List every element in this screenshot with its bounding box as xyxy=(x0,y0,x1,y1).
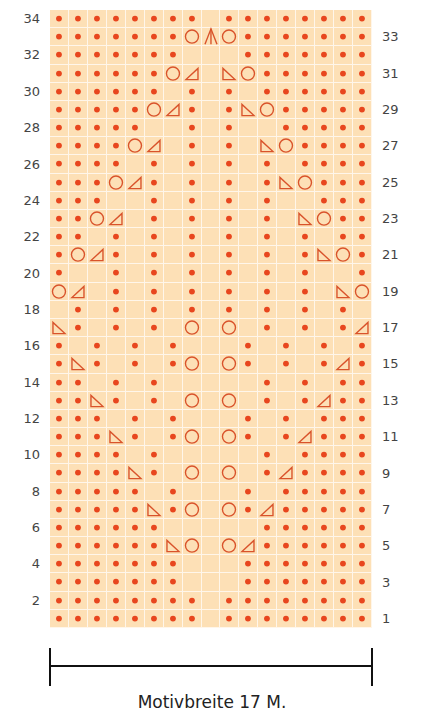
empty-cell xyxy=(220,446,239,464)
empty-cell xyxy=(126,264,145,282)
empty-cell xyxy=(258,410,277,428)
decrease-triangle-right-icon xyxy=(164,101,183,119)
decrease-triangle-left-icon xyxy=(334,283,353,301)
knit-dot-icon xyxy=(353,519,372,537)
knit-dot-icon xyxy=(50,228,69,246)
knit-dot-icon xyxy=(353,483,372,501)
empty-cell xyxy=(202,374,221,392)
knit-dot-icon xyxy=(50,573,69,591)
knit-dot-icon xyxy=(277,337,296,355)
row-label-right: 23 xyxy=(382,212,412,226)
knit-dot-icon xyxy=(315,83,334,101)
knit-dot-icon xyxy=(334,83,353,101)
knit-dot-icon xyxy=(69,301,88,319)
knit-dot-icon xyxy=(88,355,107,373)
empty-cell xyxy=(202,337,221,355)
decrease-triangle-left-icon xyxy=(220,65,239,83)
empty-cell xyxy=(277,374,296,392)
knit-dot-icon xyxy=(258,464,277,482)
empty-cell xyxy=(277,264,296,282)
empty-cell xyxy=(126,246,145,264)
knit-dot-icon xyxy=(277,28,296,46)
knit-dot-icon xyxy=(296,119,315,137)
knit-dot-icon xyxy=(334,446,353,464)
yarn-over-circle-icon xyxy=(183,428,202,446)
decrease-triangle-right-icon xyxy=(69,283,88,301)
empty-cell xyxy=(239,137,258,155)
knit-dot-icon xyxy=(183,301,202,319)
empty-cell xyxy=(126,301,145,319)
row-label-right: 25 xyxy=(382,176,412,190)
decrease-triangle-right-icon xyxy=(145,137,164,155)
knit-dot-icon xyxy=(69,519,88,537)
knit-dot-icon xyxy=(145,28,164,46)
yarn-over-circle-icon xyxy=(220,28,239,46)
knit-dot-icon xyxy=(334,464,353,482)
decrease-triangle-left-icon xyxy=(107,428,126,446)
knit-dot-icon xyxy=(69,28,88,46)
empty-cell xyxy=(315,283,334,301)
decrease-triangle-left-icon xyxy=(164,537,183,555)
knit-dot-icon xyxy=(258,301,277,319)
empty-cell xyxy=(277,446,296,464)
knit-dot-icon xyxy=(88,555,107,573)
empty-cell xyxy=(202,428,221,446)
yarn-over-circle-icon xyxy=(88,210,107,228)
knit-dot-icon xyxy=(107,228,126,246)
knit-dot-icon xyxy=(239,355,258,373)
knit-dot-icon xyxy=(296,374,315,392)
empty-cell xyxy=(277,283,296,301)
knit-dot-icon xyxy=(126,28,145,46)
empty-cell xyxy=(315,319,334,337)
knit-dot-icon xyxy=(88,46,107,64)
row-label-left: 20 xyxy=(0,267,40,281)
knit-dot-icon xyxy=(334,537,353,555)
empty-cell xyxy=(296,355,315,373)
yarn-over-circle-icon xyxy=(183,319,202,337)
knit-dot-icon xyxy=(353,337,372,355)
knit-dot-icon xyxy=(239,555,258,573)
yarn-over-circle-icon xyxy=(220,428,239,446)
knit-dot-icon xyxy=(239,501,258,519)
scale-line xyxy=(49,665,373,667)
empty-cell xyxy=(183,555,202,573)
yarn-over-circle-icon xyxy=(258,101,277,119)
knit-dot-icon xyxy=(296,28,315,46)
yarn-over-circle-icon xyxy=(107,174,126,192)
yarn-over-circle-icon xyxy=(220,537,239,555)
knit-dot-icon xyxy=(353,65,372,83)
empty-cell xyxy=(183,374,202,392)
yarn-over-circle-icon xyxy=(164,65,183,83)
knit-dot-icon xyxy=(296,555,315,573)
knit-dot-icon xyxy=(69,101,88,119)
empty-cell xyxy=(239,464,258,482)
knit-dot-icon xyxy=(296,519,315,537)
empty-cell xyxy=(126,155,145,173)
knit-dot-icon xyxy=(69,501,88,519)
knit-dot-icon xyxy=(107,374,126,392)
empty-cell xyxy=(145,428,164,446)
knit-dot-icon xyxy=(145,46,164,64)
empty-cell xyxy=(202,65,221,83)
empty-cell xyxy=(164,374,183,392)
knit-dot-icon xyxy=(50,464,69,482)
knit-dot-icon xyxy=(334,155,353,173)
knit-dot-icon xyxy=(107,65,126,83)
empty-cell xyxy=(258,483,277,501)
knit-dot-icon xyxy=(126,537,145,555)
knit-dot-icon xyxy=(353,428,372,446)
knit-dot-icon xyxy=(183,610,202,628)
knit-dot-icon xyxy=(315,573,334,591)
knit-dot-icon xyxy=(258,210,277,228)
empty-cell xyxy=(183,337,202,355)
empty-cell xyxy=(202,283,221,301)
empty-cell xyxy=(353,301,372,319)
knit-dot-icon xyxy=(69,10,88,28)
knit-dot-icon xyxy=(334,137,353,155)
knit-dot-icon xyxy=(353,610,372,628)
knit-dot-icon xyxy=(88,483,107,501)
empty-cell xyxy=(164,319,183,337)
knit-dot-icon xyxy=(296,319,315,337)
empty-cell xyxy=(183,519,202,537)
knit-dot-icon xyxy=(50,446,69,464)
